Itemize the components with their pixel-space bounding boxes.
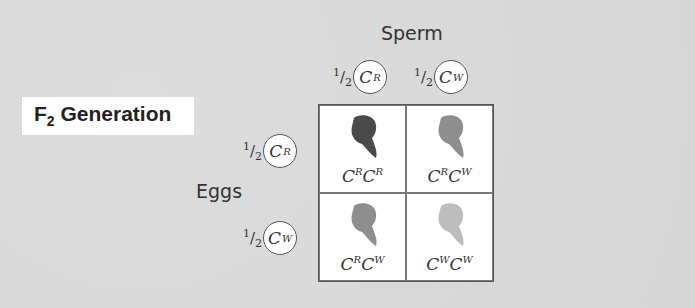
punnett-square: CRCR CRCW CRCW CWCW <box>318 104 494 282</box>
punnett-cell-rw: CRCW <box>319 193 406 281</box>
genotype-label: CRCW <box>407 166 492 186</box>
allele-circle: CR <box>353 60 387 94</box>
fraction-half: 1/2 <box>333 66 352 89</box>
allele-circle: CW <box>263 221 297 255</box>
punnett-cell-rw: CRCW <box>406 105 493 193</box>
generation-title-box: F2 Generation <box>22 97 194 135</box>
genotype-label: CWCW <box>407 254 492 274</box>
allele-circle: CR <box>263 134 297 168</box>
genotype-label: CRCR <box>320 166 405 186</box>
punnett-cell-ww: CWCW <box>406 193 493 281</box>
egg-allele-w: 1/2 CW <box>243 221 297 255</box>
fraction-half: 1/2 <box>414 66 433 89</box>
punnett-cell-rr: CRCR <box>319 105 406 193</box>
genotype-label: CRCW <box>320 254 405 274</box>
sperm-label: Sperm <box>381 22 443 44</box>
snapdragon-flower-icon <box>435 114 467 162</box>
sperm-allele-r: 1/2 CR <box>333 60 387 94</box>
egg-allele-r: 1/2 CR <box>243 134 297 168</box>
fraction-half: 1/2 <box>243 227 262 250</box>
snapdragon-flower-icon <box>348 202 380 250</box>
eggs-label: Eggs <box>196 180 242 202</box>
snapdragon-flower-icon <box>348 114 380 162</box>
sperm-allele-w: 1/2 CW <box>414 60 468 94</box>
fraction-half: 1/2 <box>243 140 262 163</box>
generation-title: F2 Generation <box>34 102 171 129</box>
snapdragon-flower-icon <box>435 202 467 250</box>
allele-circle: CW <box>434 60 468 94</box>
